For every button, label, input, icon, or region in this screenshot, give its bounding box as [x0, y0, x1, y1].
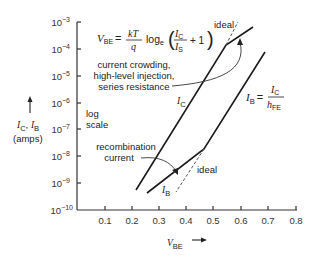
- y-axis: [77, 22, 81, 210]
- vbe-equation: VBE= kT q loge ( IC IS + 1 ): [97, 28, 214, 53]
- ib-label: IB: [161, 185, 170, 198]
- svg-text:series resistance: series resistance: [98, 81, 169, 92]
- ic-label: IC: [176, 96, 186, 109]
- svg-text:IC, IB: IC, IB: [16, 119, 39, 133]
- svg-text:+ 1: + 1: [190, 35, 205, 46]
- x-tick-labels: 0.1 0.2 0.3 0.4 0.5 0.6 0.7 0.8: [98, 215, 302, 226]
- svg-text:0.8: 0.8: [289, 215, 302, 226]
- log-scale-label: log scale: [86, 108, 108, 130]
- chart: 10−3 10−4 10−5 10−6 10−7 10−8 10−9 10−10…: [0, 0, 318, 257]
- crowding-annotation: current crowding, high-level injection, …: [94, 59, 175, 92]
- svg-text:): ): [207, 28, 214, 50]
- svg-text:0.1: 0.1: [98, 215, 111, 226]
- svg-text:high-level injection,: high-level injection,: [94, 70, 175, 81]
- svg-text:10−9: 10−9: [51, 177, 70, 189]
- svg-text:10−10: 10−10: [51, 204, 74, 216]
- ideal-top-label: ideal: [214, 19, 234, 30]
- svg-text:0.6: 0.6: [234, 215, 247, 226]
- y-axis-label: IC, IB (amps): [13, 96, 43, 144]
- svg-text:IS: IS: [174, 41, 183, 53]
- svg-text:IB=: IB=: [245, 91, 263, 106]
- svg-text:VBE=: VBE=: [97, 32, 122, 45]
- svg-text:(amps): (amps): [13, 133, 43, 144]
- svg-text:current crowding,: current crowding,: [98, 59, 171, 70]
- ideal-bottom-label: ideal: [197, 164, 217, 175]
- svg-text:recombination: recombination: [96, 141, 156, 152]
- svg-text:10−3: 10−3: [51, 16, 70, 28]
- svg-text:0.7: 0.7: [261, 215, 274, 226]
- y-tick-labels: 10−3 10−4 10−5 10−6 10−7 10−8 10−9 10−10: [51, 16, 74, 216]
- svg-text:0.5: 0.5: [206, 215, 219, 226]
- recombination-arrow: [141, 158, 176, 171]
- ic-curve: [136, 27, 253, 190]
- recombination-annotation: recombination current: [96, 141, 156, 163]
- svg-text:10−6: 10−6: [51, 97, 70, 109]
- x-axis-label: VBE: [167, 238, 207, 252]
- svg-text:IC: IC: [270, 84, 279, 96]
- svg-text:10−7: 10−7: [51, 123, 70, 135]
- svg-text:0.3: 0.3: [152, 215, 165, 226]
- svg-text:log: log: [86, 108, 99, 119]
- svg-text:scale: scale: [86, 119, 108, 130]
- svg-text:0.2: 0.2: [125, 215, 138, 226]
- svg-text:IC: IC: [174, 28, 183, 40]
- ib-equation: IB= IC hFE: [245, 84, 284, 111]
- svg-text:10−5: 10−5: [51, 70, 70, 82]
- svg-text:VBE: VBE: [167, 238, 183, 251]
- svg-text:(: (: [168, 28, 175, 50]
- svg-text:current: current: [104, 152, 134, 163]
- x-axis: [77, 206, 297, 210]
- svg-text:10−8: 10−8: [51, 150, 70, 162]
- svg-text:10−4: 10−4: [51, 43, 70, 55]
- svg-text:q: q: [131, 41, 136, 52]
- crowding-arrowhead: [237, 38, 243, 45]
- svg-text:kT: kT: [128, 28, 139, 39]
- svg-text:hFE: hFE: [267, 99, 281, 111]
- svg-text:loge: loge: [146, 33, 164, 46]
- svg-text:0.4: 0.4: [179, 215, 192, 226]
